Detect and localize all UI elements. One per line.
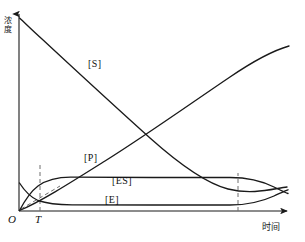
curve-s — [20, 18, 288, 192]
plot-canvas — [0, 0, 305, 242]
curve-label-es: [ES] — [112, 175, 132, 186]
x-tick-label-t: T — [35, 213, 41, 225]
concentration-time-figure: 浓度 时间 O T [S] [P] [ES] [E] — [0, 0, 305, 242]
y-axis-label: 浓度 — [1, 16, 15, 34]
origin-label: O — [8, 213, 16, 225]
curve-p — [20, 46, 290, 211]
curve-label-s: [S] — [88, 58, 101, 69]
curve-label-p: [P] — [84, 152, 97, 163]
x-axis-label: 时间 — [262, 222, 280, 232]
curve-label-e: [E] — [105, 194, 119, 205]
